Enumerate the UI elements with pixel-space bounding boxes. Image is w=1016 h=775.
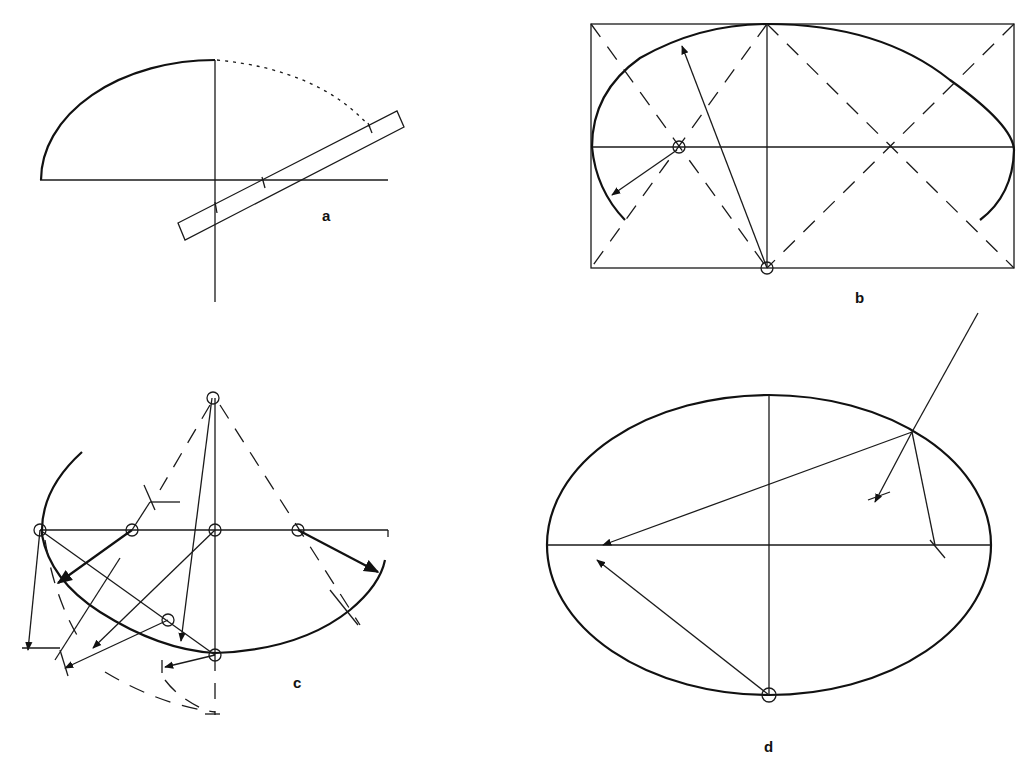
figure-b: b xyxy=(591,24,1014,306)
figure-a: a xyxy=(40,60,404,302)
radius-arrow-long xyxy=(682,46,767,268)
figure-label-c: c xyxy=(293,674,301,691)
dashed-ray-right xyxy=(220,405,360,625)
construction-dashes-right xyxy=(767,24,1014,268)
ellipse-arc-left xyxy=(42,452,215,653)
trammel-strip xyxy=(178,111,404,240)
construction-dashes-left xyxy=(591,24,767,268)
figure-d: d xyxy=(547,313,991,755)
figure-c: c xyxy=(22,392,388,715)
dotted-swing-arc xyxy=(217,60,370,127)
dashed-swing-arc-2 xyxy=(105,672,215,712)
focal-ray-right xyxy=(912,432,935,545)
radius-from-bottom xyxy=(597,560,769,695)
bounding-rectangle xyxy=(591,24,1014,268)
tangent-extension xyxy=(912,313,978,432)
ellipse-upper-arc xyxy=(592,24,1014,220)
ellipse-construction-diagram: a b xyxy=(0,0,1016,775)
radius-arrow-short xyxy=(612,150,677,195)
normal-ray xyxy=(875,432,912,502)
figure-label-a: a xyxy=(322,207,331,224)
focal-ray-left xyxy=(603,432,912,545)
figure-label-b: b xyxy=(855,289,864,306)
ellipse-arc-right xyxy=(215,560,385,653)
quarter-ellipse-curve xyxy=(41,60,215,180)
figure-label-d: d xyxy=(764,738,773,755)
arc-centers xyxy=(34,392,304,661)
